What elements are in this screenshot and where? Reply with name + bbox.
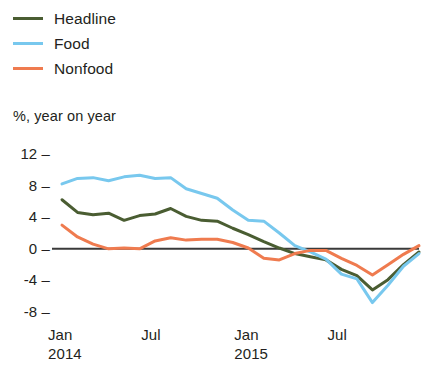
x-tick-0: Jan2014 (48, 326, 82, 362)
x-tick-month-1: Jul (141, 326, 160, 343)
x-tick-month-3: Jul (327, 326, 346, 343)
x-tick-1: Jul (141, 326, 160, 343)
plot-svg (0, 0, 423, 371)
plot-area (0, 0, 423, 371)
x-tick-2: Jan2015 (234, 326, 268, 362)
y-tick-12: 12 – (6, 145, 50, 162)
y-tick-neg4: -4 – (6, 271, 50, 288)
y-tick-4: 4 – (6, 208, 50, 225)
chart-figure: Headline Food Nonfood %, year on year 12… (0, 0, 423, 371)
series-lines (62, 175, 419, 302)
x-tick-year-0: 2014 (48, 345, 82, 362)
y-tick-0: 0 – (6, 240, 50, 257)
x-tick-month-2: Jan (234, 326, 259, 343)
x-tick-year-2: 2015 (234, 345, 268, 362)
x-tick-month-0: Jan (48, 326, 73, 343)
y-tick-neg8: -8 – (6, 303, 50, 320)
x-tick-3: Jul (327, 326, 346, 343)
y-tick-8: 8 – (6, 177, 50, 194)
